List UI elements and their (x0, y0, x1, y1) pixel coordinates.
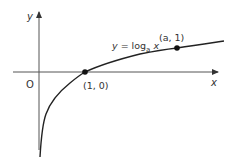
point-a-1 (174, 45, 180, 51)
function-label-x: x (150, 40, 159, 51)
log-graph: y x O (1, 0) (a, 1) y = loga x (0, 0, 236, 166)
x-axis-label: x (210, 77, 217, 88)
origin-label: O (26, 79, 34, 90)
point-label-a-1: (a, 1) (159, 32, 184, 43)
point-1-0 (82, 69, 88, 75)
y-axis-label: y (26, 11, 34, 22)
point-label-1-0: (1, 0) (83, 80, 109, 91)
log-curve (40, 41, 224, 157)
function-label-eq: = log (118, 40, 146, 51)
